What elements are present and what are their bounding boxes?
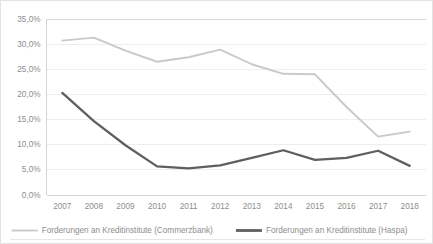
y-axis-tick-label: 25,0%: [17, 65, 40, 74]
legend-label: Forderungen an Kreditinstitute (Haspa): [266, 226, 408, 235]
x-axis-tick-label: 2017: [369, 202, 388, 211]
x-axis-tick-label: 2016: [337, 202, 356, 211]
y-axis-tick-label: 15,0%: [17, 115, 40, 124]
legend-label: Forderungen an Kreditinstitute (Commerzb…: [42, 226, 213, 235]
y-axis-tick-label: 20,0%: [17, 90, 40, 99]
chart-legend: Forderungen an Kreditinstitute (Commerzb…: [10, 226, 425, 240]
x-axis-tick-label: 2011: [180, 202, 198, 211]
y-axis-tick-label: 10,0%: [17, 140, 40, 149]
series-group: [62, 38, 409, 169]
y-axis-tick-label: 5,0%: [22, 165, 41, 174]
series-line-haspa: [62, 93, 409, 168]
series-line-commerzbank: [62, 38, 409, 137]
y-axis-tick-labels: 0,0%5,0%10,0%15,0%20,0%25,0%30,0%35,0%: [17, 15, 40, 200]
x-axis-tick-label: 2009: [116, 202, 135, 211]
y-axis-tick-label: 35,0%: [17, 15, 40, 24]
chart-card: 0,0%5,0%10,0%15,0%20,0%25,0%30,0%35,0% 2…: [0, 0, 433, 244]
legend-item[interactable]: Forderungen an Kreditinstitute (Haspa): [236, 226, 408, 235]
x-axis-tick-label: 2014: [274, 202, 293, 211]
x-axis-tick-label: 2013: [243, 202, 262, 211]
y-axis-tick-label: 0,0%: [22, 191, 41, 200]
x-axis-tick-labels: 2007200820092010201120122013201420152016…: [53, 202, 419, 211]
line-chart: 0,0%5,0%10,0%15,0%20,0%25,0%30,0%35,0% 2…: [1, 1, 433, 244]
x-axis-tick-label: 2010: [148, 202, 167, 211]
x-axis-tick-label: 2018: [401, 202, 420, 211]
chart-plot-area: 0,0%5,0%10,0%15,0%20,0%25,0%30,0%35,0% 2…: [1, 1, 433, 244]
x-axis-tick-label: 2012: [211, 202, 230, 211]
x-axis-tick-label: 2015: [306, 202, 325, 211]
legend-item[interactable]: Forderungen an Kreditinstitute (Commerzb…: [12, 226, 213, 235]
gridlines-group: [47, 19, 426, 196]
x-axis-tick-label: 2008: [85, 202, 104, 211]
x-axis-tick-label: 2007: [53, 202, 72, 211]
y-axis-tick-label: 30,0%: [17, 40, 40, 49]
